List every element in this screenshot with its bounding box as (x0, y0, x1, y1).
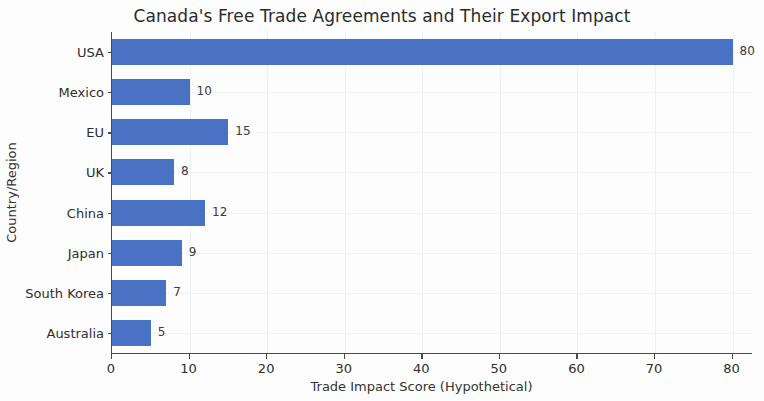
y-tick-label-uk: UK (0, 165, 104, 180)
x-tick-label-40: 40 (413, 361, 430, 376)
bar-row[interactable]: 80 (112, 33, 752, 71)
y-tick-label-usa: USA (0, 45, 104, 60)
y-tick-mark (108, 132, 112, 133)
y-tick-label-china: China (0, 205, 104, 220)
bar-row[interactable]: 10 (112, 73, 752, 111)
x-tick-label-80: 80 (723, 361, 740, 376)
y-tick-mark (108, 172, 112, 173)
plot-area: 801015812975 (111, 32, 752, 354)
x-tick-mark (344, 354, 345, 359)
bar-value-label: 15 (235, 124, 250, 138)
bar-row[interactable]: 12 (112, 194, 752, 232)
bar-value-label: 80 (740, 44, 755, 58)
bar-row[interactable]: 8 (112, 153, 752, 191)
bar[interactable] (112, 79, 190, 105)
bar-row[interactable]: 9 (112, 234, 752, 272)
x-tick-mark (111, 354, 112, 359)
x-tick-label-20: 20 (258, 361, 275, 376)
x-tick-label-70: 70 (646, 361, 663, 376)
bar[interactable] (112, 119, 228, 145)
bar[interactable] (112, 200, 205, 226)
y-tick-mark (108, 213, 112, 214)
y-tick-mark (108, 253, 112, 254)
bar-row[interactable]: 15 (112, 113, 752, 151)
bar-value-label: 5 (158, 325, 166, 339)
y-tick-mark (108, 293, 112, 294)
x-tick-mark (732, 354, 733, 359)
y-tick-mark (108, 333, 112, 334)
y-tick-label-japan: Japan (0, 245, 104, 260)
bar[interactable] (112, 240, 182, 266)
x-tick-label-10: 10 (180, 361, 197, 376)
chart-title: Canada's Free Trade Agreements and Their… (0, 6, 764, 26)
bar-value-label: 8 (181, 164, 189, 178)
bar[interactable] (112, 320, 151, 346)
bar-value-label: 7 (173, 285, 181, 299)
x-tick-label-30: 30 (335, 361, 352, 376)
y-tick-label-mexico: Mexico (0, 85, 104, 100)
bar-row[interactable]: 5 (112, 314, 752, 352)
x-axis-label: Trade Impact Score (Hypothetical) (111, 379, 732, 394)
x-tick-label-60: 60 (568, 361, 585, 376)
bar[interactable] (112, 159, 174, 185)
bar[interactable] (112, 39, 733, 65)
y-tick-label-south-korea: South Korea (0, 285, 104, 300)
bar-value-label: 12 (212, 205, 227, 219)
x-tick-mark (189, 354, 190, 359)
x-tick-mark (654, 354, 655, 359)
bar-row[interactable]: 7 (112, 274, 752, 312)
x-tick-label-0: 0 (107, 361, 115, 376)
bar[interactable] (112, 280, 166, 306)
y-axis-tick-labels: USAMexicoEUUKChinaJapanSouth KoreaAustra… (0, 0, 104, 401)
bar-value-label: 9 (189, 245, 197, 259)
x-tick-label-50: 50 (491, 361, 508, 376)
y-tick-mark (108, 52, 112, 53)
y-tick-label-eu: EU (0, 125, 104, 140)
bar-value-label: 10 (197, 84, 212, 98)
x-tick-mark (499, 354, 500, 359)
x-tick-mark (266, 354, 267, 359)
x-tick-mark (576, 354, 577, 359)
x-tick-mark (421, 354, 422, 359)
y-tick-label-australia: Australia (0, 325, 104, 340)
y-tick-mark (108, 92, 112, 93)
bar-chart-figure: Canada's Free Trade Agreements and Their… (0, 0, 764, 401)
